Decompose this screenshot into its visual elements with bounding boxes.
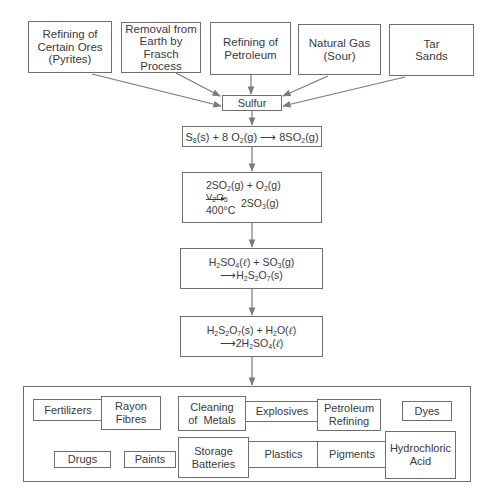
reaction-arrow-icon: [206, 199, 224, 200]
sulfur-node: Sulfur: [222, 95, 282, 111]
app-pigments: Pigments: [317, 441, 387, 468]
reaction-oleum-line2: ⟶H2S2O7(s): [220, 269, 283, 281]
reaction-dilution-line2: ⟶2H2SO4(ℓ): [220, 337, 284, 350]
reaction-contact-reactants: 2SO2(g) + O2(g): [206, 179, 281, 191]
app-cleaning-of-metals: Cleaning of Metals: [178, 396, 246, 431]
app-explosives: Explosives: [245, 401, 319, 422]
app-drugs: Drugs: [54, 451, 111, 468]
app-petroleum-refining: Petroleum Refining: [317, 399, 381, 431]
arrow-natural-gas-to-sulfur: [283, 76, 328, 96]
reaction-combustion-equation: S8(s) + 8 O2(g) ⟶ 8SO2(g): [185, 131, 318, 143]
source-pyrites: Refining of Certain Ores (Pyrites): [28, 21, 112, 73]
source-natural-gas: Natural Gas (Sour): [298, 24, 381, 75]
app-hydrochloric-acid: Hydrochloric Acid: [385, 431, 456, 479]
reaction-dilution-line1: H2S2O7(s) + H2O(ℓ): [207, 324, 297, 337]
app-dyes: Dyes: [402, 401, 452, 421]
reaction-contact-product: 2SO3(g): [241, 197, 279, 209]
app-rayon-fibres: Rayon Fibres: [101, 396, 161, 430]
app-plastics: Plastics: [248, 441, 319, 468]
app-storage-batteries: Storage Batteries: [178, 437, 249, 478]
reaction-combustion: S8(s) + 8 O2(g) ⟶ 8SO2(g): [182, 126, 322, 147]
arrow-pyrites-to-sulfur: [92, 74, 221, 106]
source-petroleum: Refining of Petroleum: [210, 22, 291, 75]
source-tar-sands: Tar Sands: [389, 24, 474, 76]
reaction-dilution: H2S2O7(s) + H2O(ℓ) ⟶2H2SO4(ℓ): [180, 316, 323, 357]
temperature-label: 400°C: [206, 204, 235, 216]
app-fertilizers: Fertilizers: [33, 399, 103, 421]
source-frasch-process: Removal from Earth by Frasch Process: [121, 22, 201, 73]
reaction-oleum: H2SO4(ℓ) + SO3(g) ⟶H2S2O7(s): [180, 248, 323, 289]
reaction-oleum-line1: H2SO4(ℓ) + SO3(g): [209, 256, 295, 269]
arrow-frasch-to-sulfur: [176, 73, 220, 96]
reaction-contact-process: 2SO2(g) + O2(g) V2O5 400°C 2SO3(g): [182, 172, 322, 223]
arrow-tar-sands-to-sulfur: [283, 77, 405, 106]
app-paints: Paints: [124, 451, 176, 468]
